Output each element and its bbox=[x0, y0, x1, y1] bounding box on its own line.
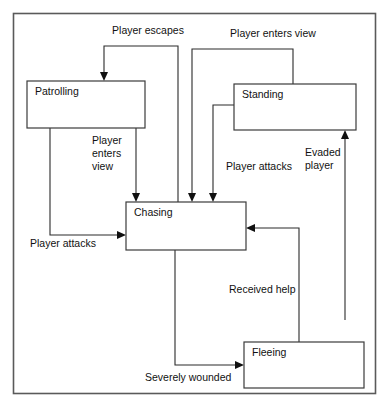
state-label-standing: Standing bbox=[242, 88, 284, 100]
edge-label-player-attacks-standing: Player attacks bbox=[226, 160, 292, 172]
edge-label-player-enters-view-patrolling-line3: view bbox=[92, 160, 113, 172]
edge-label-evaded-player-line1: Evaded bbox=[305, 146, 341, 158]
state-label-chasing: Chasing bbox=[134, 206, 173, 218]
state-node-standing[interactable]: Standing bbox=[234, 84, 356, 130]
state-diagram-container: Player escapes Player enters view Player… bbox=[0, 0, 391, 411]
edge-label-player-enters-view-patrolling-line1: Player bbox=[92, 134, 122, 146]
edge-label-severely-wounded: Severely wounded bbox=[145, 371, 232, 383]
edge-label-player-enters-view-patrolling-line2: enters bbox=[92, 147, 121, 159]
edge-label-evaded-player-line2: player bbox=[305, 159, 334, 171]
edge-label-received-help: Received help bbox=[229, 283, 296, 295]
state-label-fleeing: Fleeing bbox=[252, 346, 287, 358]
edge-label-player-enters-view-standing: Player enters view bbox=[230, 27, 316, 39]
state-node-patrolling[interactable]: Patrolling bbox=[27, 81, 145, 128]
state-label-patrolling: Patrolling bbox=[35, 85, 79, 97]
edge-label-player-attacks-patrolling: Player attacks bbox=[30, 237, 96, 249]
state-node-fleeing[interactable]: Fleeing bbox=[244, 342, 364, 388]
edge-label-player-escapes: Player escapes bbox=[112, 24, 184, 36]
state-node-chasing[interactable]: Chasing bbox=[126, 202, 246, 250]
state-diagram-canvas: Player escapes Player enters view Player… bbox=[0, 0, 391, 411]
